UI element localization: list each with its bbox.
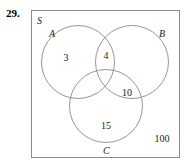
circle-set-C bbox=[70, 70, 143, 143]
universal-set-label: S bbox=[37, 15, 42, 26]
region-count-b-and-c: 10 bbox=[122, 87, 132, 98]
set-label-C: C bbox=[103, 145, 110, 156]
region-count-a-and-b: 4 bbox=[104, 50, 109, 61]
region-count-c-only: 15 bbox=[101, 120, 111, 131]
circle-set-B bbox=[96, 26, 169, 99]
universal-set-box: S A B C 3 4 10 15 100 bbox=[31, 10, 180, 158]
region-count-outside: 100 bbox=[155, 133, 170, 144]
problem-number: 29. bbox=[6, 7, 20, 19]
set-label-B: B bbox=[159, 28, 165, 39]
venn-diagram-figure: 29. S A B C 3 4 10 15 100 bbox=[0, 0, 188, 167]
set-label-A: A bbox=[49, 28, 55, 39]
region-count-a-only: 3 bbox=[64, 52, 69, 63]
